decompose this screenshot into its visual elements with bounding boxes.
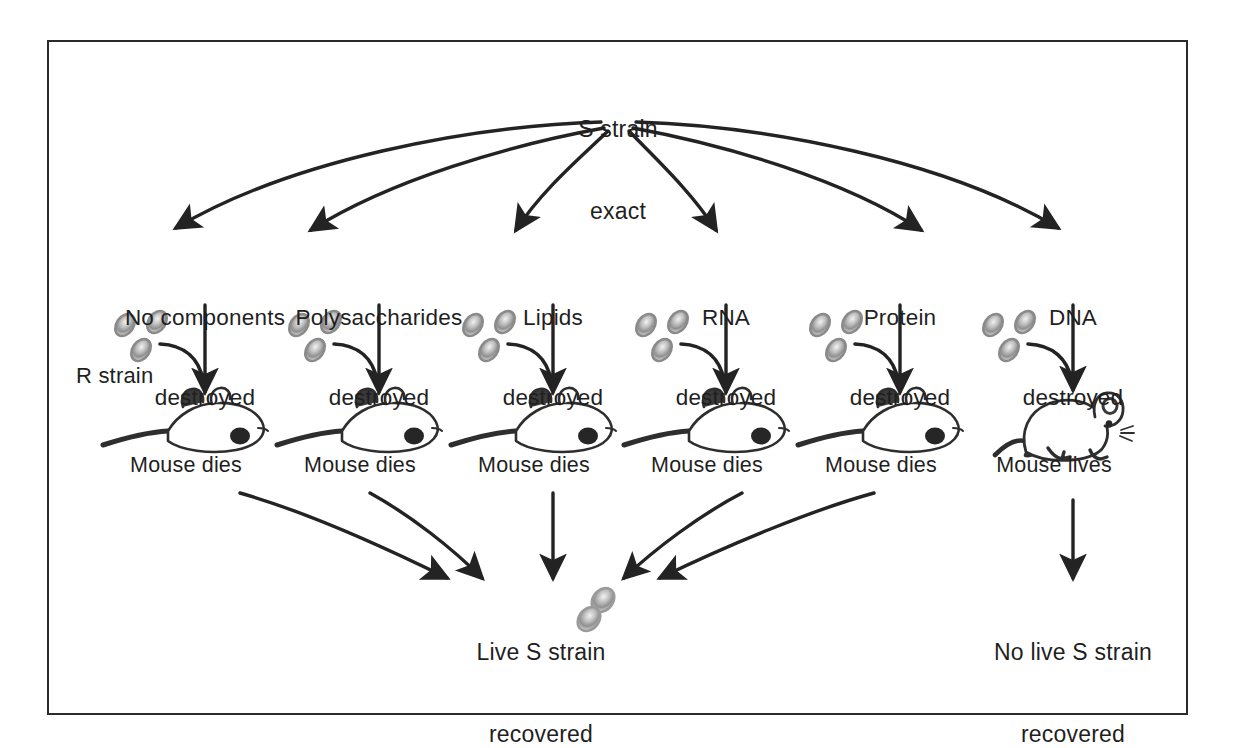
source-label: S strain exact	[488, 62, 748, 279]
result-line1: Live S strain	[391, 639, 691, 666]
source-label-line1: S strain	[488, 116, 748, 143]
treatment-label-dna: DNA destroyed	[958, 252, 1188, 464]
outcome-label-1: Mouse dies	[86, 453, 286, 478]
result-line1: No live S strain	[923, 639, 1223, 666]
result-label-no-live-s-strain: No live S strain recovered	[923, 585, 1223, 748]
treatment-line2: destroyed	[958, 385, 1188, 412]
result-label-live-s-strain: Live S strain recovered	[391, 585, 691, 748]
outcome-label-4: Mouse dies	[607, 453, 807, 478]
result-line2: recovered	[391, 721, 691, 748]
treatment-line1: DNA	[958, 305, 1188, 332]
outcome-label-3: Mouse dies	[434, 453, 634, 478]
transformation-experiment-figure: S strain exact No components destroyed P…	[0, 0, 1233, 748]
outcome-label-2: Mouse dies	[260, 453, 460, 478]
source-label-line2: exact	[488, 198, 748, 225]
result-line2: recovered	[923, 721, 1223, 748]
inoculum-label: R strain	[76, 363, 236, 389]
outcome-label-5: Mouse dies	[781, 453, 981, 478]
outcome-label-6: Mouse lives	[954, 453, 1154, 478]
